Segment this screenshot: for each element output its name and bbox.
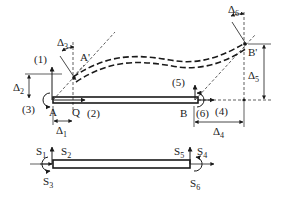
dof-6-label: (6) (196, 107, 209, 120)
lower-figure: S1 S2 S3 S4 S5 S6 (30, 145, 214, 192)
delta-3-label: Δ3 (57, 36, 68, 51)
delta-2-label: Δ2 (13, 81, 24, 96)
node-b-prime-label: B' (248, 46, 257, 58)
node-q-label: Q (72, 106, 80, 118)
deformed-beam (73, 43, 247, 82)
node-a-prime-dot (72, 76, 76, 80)
s2-label: S2 (61, 145, 71, 160)
dof-5-label: (5) (172, 76, 185, 89)
beam-dof-diagram: (1) (2) (3) Δ2 Δ1 Δ3 A Q A' (5) (0, 0, 284, 197)
delta-1-label: Δ1 (56, 124, 67, 139)
dof-3-rotation-icon (43, 93, 50, 107)
dof-1-label: (1) (34, 53, 47, 66)
dof-3-label: (3) (22, 103, 35, 116)
s5-label: S5 (174, 145, 184, 160)
node-a-label: A (49, 106, 57, 118)
node-a-prime-label: A' (80, 51, 90, 63)
s1-label: S1 (36, 145, 46, 160)
s6-label: S6 (190, 177, 200, 192)
free-body-beam (53, 160, 190, 168)
delta-6-label: Δ6 (228, 3, 239, 18)
dof-2-label: (2) (87, 107, 100, 120)
node-b-prime-dot (243, 42, 247, 46)
dof-4-label: (4) (215, 105, 228, 118)
delta-4-label: Δ4 (213, 125, 224, 140)
node-b-axis-dot (242, 98, 245, 101)
s3-label: S3 (43, 175, 53, 190)
upper-figure: (1) (2) (3) Δ2 Δ1 Δ3 A Q A' (5) (13, 3, 272, 140)
node-b-label: B (180, 107, 187, 119)
delta-5-label: Δ5 (248, 69, 259, 84)
